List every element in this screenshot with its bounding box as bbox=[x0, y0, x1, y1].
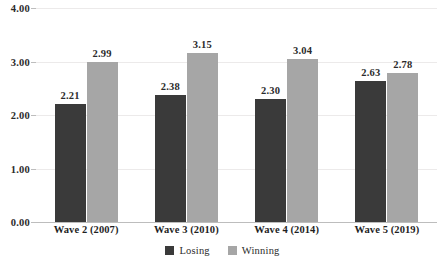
x-tick-label: Wave 5 (2019) bbox=[354, 224, 419, 235]
bar-value-label: 3.04 bbox=[293, 45, 312, 56]
bar-winning[interactable] bbox=[387, 73, 418, 222]
bar-group: 2.383.15 bbox=[155, 8, 218, 222]
bar-group: 2.303.04 bbox=[255, 8, 318, 222]
y-tick-label: 4.00 bbox=[11, 3, 30, 14]
bar-winning[interactable] bbox=[87, 62, 118, 222]
legend-swatch-icon bbox=[165, 246, 174, 255]
bar-value-label: 2.30 bbox=[261, 85, 280, 96]
bar-value-label: 2.78 bbox=[393, 59, 412, 70]
bar-value-label: 3.15 bbox=[193, 39, 212, 50]
bar-value-label: 2.63 bbox=[361, 67, 380, 78]
legend-item-winning[interactable]: Winning bbox=[228, 245, 280, 256]
legend-swatch-icon bbox=[228, 246, 237, 255]
legend-label: Losing bbox=[179, 245, 209, 256]
plot-area: 2.212.992.383.152.303.042.632.78 bbox=[36, 8, 437, 222]
legend-label: Winning bbox=[242, 245, 280, 256]
bar-value-label: 2.21 bbox=[61, 90, 80, 101]
y-axis: 4.003.002.001.000.00 bbox=[0, 0, 36, 231]
bar-losing[interactable] bbox=[155, 95, 186, 222]
chart-legend: LosingWinning bbox=[0, 245, 445, 256]
bar-chart: 4.003.002.001.000.00 2.212.992.383.152.3… bbox=[0, 0, 445, 263]
y-tick-label: 0.00 bbox=[11, 217, 30, 228]
x-tick-label: Wave 3 (2010) bbox=[154, 224, 219, 235]
x-axis: Wave 2 (2007)Wave 3 (2010)Wave 4 (2014)W… bbox=[36, 224, 437, 242]
bar-group: 2.212.99 bbox=[55, 8, 118, 222]
bar-value-label: 2.38 bbox=[161, 81, 180, 92]
axis-baseline bbox=[36, 222, 437, 223]
legend-item-losing[interactable]: Losing bbox=[165, 245, 209, 256]
y-tick-label: 2.00 bbox=[11, 110, 30, 121]
bar-losing[interactable] bbox=[55, 104, 86, 222]
y-tick-label: 3.00 bbox=[11, 56, 30, 67]
bar-winning[interactable] bbox=[287, 59, 318, 222]
x-tick-label: Wave 4 (2014) bbox=[254, 224, 319, 235]
y-tick-label: 1.00 bbox=[11, 163, 30, 174]
bar-winning[interactable] bbox=[187, 53, 218, 222]
x-tick-label: Wave 2 (2007) bbox=[54, 224, 119, 235]
bar-value-label: 2.99 bbox=[93, 48, 112, 59]
bar-group: 2.632.78 bbox=[355, 8, 418, 222]
bar-losing[interactable] bbox=[355, 81, 386, 222]
bar-losing[interactable] bbox=[255, 99, 286, 222]
